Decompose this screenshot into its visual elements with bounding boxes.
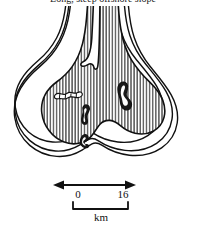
scale-start-label: 0 — [68, 189, 88, 200]
scale-unit-label: km — [73, 212, 129, 223]
scale-bracket — [73, 202, 128, 209]
scale-end-label: 16 — [110, 189, 136, 200]
map-diagram — [0, 6, 206, 178]
figure-root: Long, steep offshore slope — [0, 0, 206, 226]
feature-upper-left — [54, 92, 82, 99]
hatched-landmass — [42, 6, 165, 144]
feature-lower-center — [80, 135, 88, 148]
figure-caption: Long, steep offshore slope — [0, 0, 206, 5]
scale-bar: 0 16 km — [0, 176, 206, 226]
